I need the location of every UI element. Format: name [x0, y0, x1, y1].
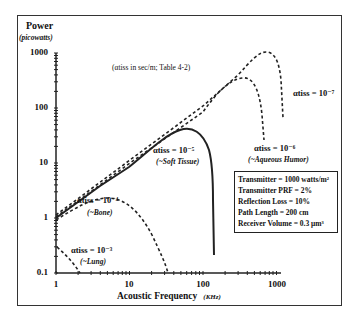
label-alpha-1e-5: αtiss = 10⁻⁵ — [153, 145, 194, 155]
x-axis-unit: (KHz) — [203, 293, 221, 301]
y-tick-1000: 1000 — [18, 47, 48, 57]
param-prf: Transmitter PRF = 2% — [238, 185, 334, 196]
x-tick-1000: 1000 — [257, 279, 297, 289]
label-aqueous-humor: (~Aqueous Humor) — [248, 155, 309, 164]
x-axis-label-text: Acoustic Frequency — [117, 291, 197, 301]
parameters-box: Transmitter = 1000 watts/m² Transmitter … — [234, 171, 338, 233]
label-lung: (~Lung) — [80, 257, 106, 266]
x-tick-10: 10 — [109, 279, 149, 289]
label-alpha-1e-3: αtiss = 10⁻³ — [71, 245, 112, 255]
units-note: (αtiss in sec/m; Table 4-2) — [112, 63, 190, 72]
y-axis-unit: (picowatts) — [19, 33, 53, 42]
label-soft-tissue: (~Soft Tissue) — [156, 157, 199, 166]
y-tick-10: 10 — [18, 157, 48, 167]
x-tick-100: 100 — [183, 279, 223, 289]
label-alpha-1e-7: αtiss = 10⁻⁷ — [293, 88, 334, 98]
label-bone: (~Bone) — [87, 208, 113, 217]
param-reflection-loss: Reflection Loss = 10% — [238, 196, 334, 207]
param-transmitter: Transmitter = 1000 watts/m² — [238, 174, 334, 185]
label-alpha-1e-6: αtiss = 10⁻⁶ — [254, 143, 295, 153]
param-receiver-volume: Receiver Volume = 0.3 μm³ — [238, 218, 334, 229]
y-tick-0.1: 0.1 — [18, 267, 48, 277]
param-path-length: Path Length = 200 cm — [238, 207, 334, 218]
y-tick-100: 100 — [18, 102, 48, 112]
y-axis-label: Power — [26, 20, 53, 31]
label-alpha-1e-4: αtiss = 10⁻⁴ — [77, 195, 118, 205]
x-tick-1: 1 — [36, 279, 76, 289]
y-tick-1: 1 — [18, 212, 48, 222]
x-axis-label: Acoustic Frequency(KHz) — [117, 291, 221, 301]
